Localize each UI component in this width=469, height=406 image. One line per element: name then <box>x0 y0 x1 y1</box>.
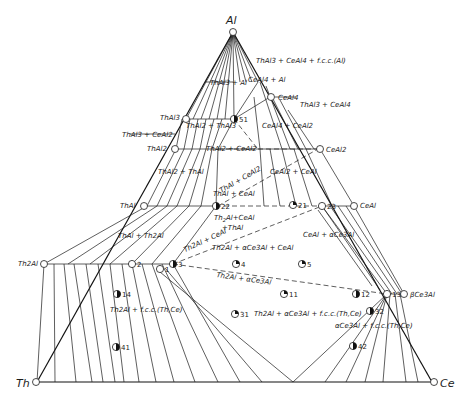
field-th2al-ace3al: Th2Al + αCe3Al <box>216 271 272 287</box>
field-thal3-al: ThAl3 + Al <box>210 79 247 87</box>
field-ceal4-ceal2: CeAl4 + CeAl2 <box>262 122 314 130</box>
sample-point-13: 13 <box>383 290 401 298</box>
compound-label-ceal4: CeAl4 <box>278 94 298 102</box>
compound-label-thal3: ThAl3 <box>160 114 180 122</box>
field-ceal2-ceal: CeAl2 + CeAl <box>270 168 317 176</box>
sample-label: 11 <box>289 291 298 299</box>
compound-label-bce3al: βCe3Al <box>410 291 435 299</box>
sample-label: 23 <box>327 203 336 211</box>
compound-label-thal: ThAl <box>120 202 136 210</box>
sample-label: 41 <box>121 344 130 352</box>
compound-label-ceal2: CeAl2 <box>326 146 347 154</box>
sample-point-14: 14 <box>113 290 131 298</box>
fan-lines-ceal-ace3al <box>318 206 404 294</box>
field-ceal-ace3al: CeAl + αCe3Al <box>303 231 354 239</box>
sample-label: 51 <box>239 116 248 124</box>
sample-label: 4 <box>241 261 246 269</box>
field-thal2-thal: ThAl2 + ThAl <box>158 168 204 176</box>
sample-point-51: 51 <box>230 115 248 123</box>
sample-label: 5 <box>307 261 311 269</box>
field-ace3al-fcc: αCe3Al + f.c.c.(Th,Ce) <box>335 322 413 330</box>
sample-point-41: 41 <box>112 343 130 351</box>
sample-label: 42 <box>358 343 367 351</box>
sample-point-31: 31 <box>231 310 249 318</box>
sample-point-22: 22 <box>212 202 230 210</box>
vertex-label-ce: Ce <box>440 377 455 390</box>
field-thal-ceal: ThAl + CeAl <box>213 190 255 198</box>
fan-lines-thal2-thal <box>147 149 218 206</box>
field-th2al-ceal-thal-1: Th2Al+CeAl <box>214 214 254 223</box>
ternary-phase-diagram: Al Th Ce ThAl3 ThAl2 ThAl Th2Al CeAl4 Ce… <box>0 0 469 406</box>
vertex-label-al: Al <box>225 14 237 27</box>
field-thal2-ceal2: ThAl2 + CeAl2 <box>206 145 257 153</box>
fan-lines-ceal4-ceal2 <box>254 82 314 149</box>
fan-lines-ceal2-ceal <box>260 149 354 206</box>
sample-label: 13 <box>392 291 401 299</box>
sample-point-32: 32 <box>366 307 384 315</box>
sample-label: 32 <box>375 308 384 316</box>
sample-point-1: 1 <box>156 265 169 273</box>
field-th2al-ace3al-fcc: Th2Al + αCe3Al + f.c.c.(Th,Ce) <box>254 310 362 318</box>
sample-point-21: 21 <box>289 201 307 209</box>
sample-point-5: 5 <box>298 260 311 268</box>
sample-label: 3 <box>178 261 182 269</box>
sample-point-2: 2 <box>128 260 141 268</box>
sample-point-3: 3 <box>169 260 182 268</box>
sample-label: 14 <box>122 291 131 299</box>
sample-label: 12 <box>361 291 370 299</box>
vertex-label-th: Th <box>16 377 30 390</box>
sample-label: 2 <box>137 261 141 269</box>
compound-label-th2al: Th2Al <box>18 260 38 268</box>
sample-point-12: 12 <box>352 290 370 298</box>
field-thal3-ceal4: ThAl3 + CeAl4 <box>300 101 351 109</box>
field-ceal4-al: CeAl4 + Al <box>248 76 285 84</box>
sample-point-4: 4 <box>232 260 246 268</box>
sample-point-11: 11 <box>280 290 298 298</box>
compound-label-ceal: CeAl <box>360 202 376 210</box>
field-th2al-fcc: Th2Al + f.c.c.(Th,Ce) <box>110 306 183 314</box>
sample-label: 1 <box>165 266 169 274</box>
field-thal-th2al: ThAl + Th2Al <box>118 232 164 240</box>
sample-point-42: 42 <box>349 342 367 350</box>
field-thal3-ceal2: ThAl3 + CeAl2 <box>122 131 173 139</box>
field-th2al-ace3al-ceal: Th2Al + αCe3Al + CeAl <box>212 244 294 252</box>
sample-label: 22 <box>221 203 230 211</box>
field-thal3-ceal4-fcc: ThAl3 + CeAl4 + f.c.c.(Al) <box>256 57 346 65</box>
field-thal2-thal3: ThAl2 + ThAl3 <box>186 122 236 130</box>
compound-label-thal2: ThAl2 <box>147 145 167 153</box>
sample-point-23: 23 <box>318 202 336 210</box>
sample-label: 31 <box>240 311 249 319</box>
sample-label: 21 <box>298 202 307 210</box>
fan-lines-ace3al-ce <box>293 294 418 382</box>
